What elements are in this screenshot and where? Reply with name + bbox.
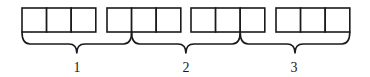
box-group-2	[107, 8, 181, 32]
brace-label-3: 3	[291, 60, 298, 75]
box-cell	[191, 8, 216, 32]
box-cell	[132, 8, 157, 32]
box-group-4	[276, 8, 350, 32]
box-cell	[71, 8, 96, 32]
box-cell	[156, 8, 181, 32]
brace-label-2: 2	[183, 60, 190, 75]
box-cell	[325, 8, 350, 32]
box-group-1	[22, 8, 96, 32]
brace-labels: 1 2 3	[74, 60, 298, 75]
box-cell	[22, 8, 47, 32]
box-groups	[22, 8, 350, 32]
brace-1	[22, 32, 132, 53]
box-group-3	[191, 8, 265, 32]
grouping-diagram: 1 2 3	[0, 0, 370, 77]
brace-3	[240, 32, 350, 53]
box-cell	[240, 8, 265, 32]
box-cell	[276, 8, 301, 32]
braces	[22, 32, 350, 53]
brace-2	[132, 32, 241, 53]
box-cell	[47, 8, 72, 32]
brace-label-1: 1	[74, 60, 81, 75]
box-cell	[107, 8, 132, 32]
box-cell	[301, 8, 326, 32]
box-cell	[216, 8, 241, 32]
